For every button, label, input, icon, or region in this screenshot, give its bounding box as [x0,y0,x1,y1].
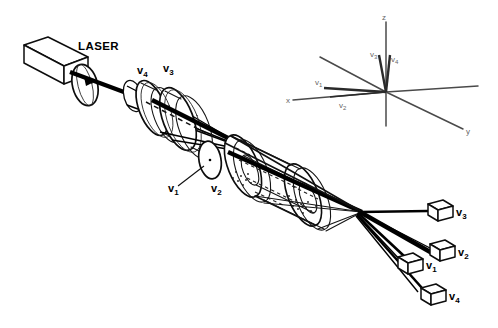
detector-v1-label: v1 [426,259,437,274]
sample-cell-assembly [217,130,362,235]
vector-v2-arrow [330,92,386,97]
leader-line-v1 [178,166,204,186]
detector-v2-label: v2 [458,246,469,261]
axis-x-label: x [286,96,290,105]
optical-setup-diagram: LASER [0,0,498,328]
axis-right-arm [386,86,478,92]
detector-v2[interactable] [430,240,455,261]
axis-y-line-lower [386,92,463,129]
axis-z-label: z [382,13,386,22]
laser-label: LASER [78,40,119,52]
detector-v3-label: v3 [456,206,467,221]
detector-v4-label: v4 [449,290,460,305]
axis-y-line-upper [320,57,386,92]
cell-v2-label: v2 [211,182,222,197]
vector-v1-label: v1 [315,78,323,88]
vector-v1-arrow [324,88,386,92]
lens-v4-label: v4 [137,64,148,79]
vector-v3-arrow [379,55,386,92]
pinhole-dot [209,159,212,162]
detector-v4[interactable] [421,284,446,305]
detector-v3[interactable] [428,200,453,221]
lens-v3-label: v3 [163,62,174,77]
figure-root: LASER [0,0,498,328]
beam-to-v3 [360,211,428,212]
axis-y-label: y [466,127,470,136]
vector-v3-label: v3 [370,50,378,60]
vector-v4-label: v4 [391,55,399,65]
beam-to-v4 [357,215,422,288]
coordinate-system: x z y v3 v4 v1 v2 [286,13,478,136]
detector-v1[interactable] [398,253,423,274]
pinhole-v1-label: v1 [168,182,179,197]
scattered-beams-fan [356,211,432,292]
vector-v2-label: v2 [339,101,347,111]
